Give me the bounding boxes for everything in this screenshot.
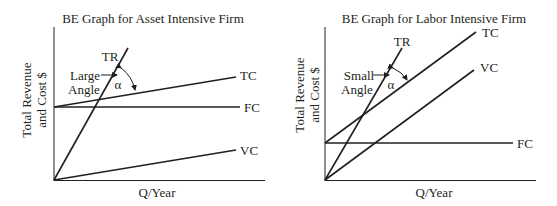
y-axis-label-line2: and Cost $ (307, 67, 322, 123)
angle-arc-icon (121, 68, 135, 90)
y-axis-label-line1: Total Revenue (292, 57, 307, 132)
y-axis-label-line1: Total Revenue (19, 62, 34, 137)
angle-label-line1: Large (70, 68, 100, 83)
break-even-figure: BE Graph for Asset Intensive Firm Total … (0, 0, 557, 206)
chart-title: BE Graph for Labor Intensive Firm (342, 11, 526, 26)
fc-label: FC (244, 100, 260, 115)
angle-label-line2: Angle (341, 82, 373, 97)
vc-line (54, 150, 236, 180)
tr-label: TR (102, 49, 119, 64)
alpha-symbol: α (388, 77, 395, 92)
x-axis-label: Q/Year (139, 185, 177, 200)
chart-title: BE Graph for Asset Intensive Firm (62, 11, 244, 26)
chart-labor-intensive: BE Graph for Labor Intensive Firm Total … (292, 11, 536, 200)
angle-arc-icon (393, 68, 407, 80)
tr-label: TR (394, 34, 411, 49)
vc-label: VC (480, 60, 498, 75)
tc-label: TC (240, 68, 257, 83)
vc-label: VC (240, 143, 258, 158)
chart-asset-intensive: BE Graph for Asset Intensive Firm Total … (19, 11, 265, 200)
y-axis-label-line2: and Cost $ (34, 72, 49, 128)
fc-label: FC (517, 136, 533, 151)
x-axis-label: Q/Year (416, 185, 454, 200)
tc-label: TC (482, 25, 499, 40)
angle-label-line2: Angle (68, 82, 100, 97)
alpha-symbol: α (115, 77, 122, 92)
angle-label-line1: Small (344, 68, 375, 83)
